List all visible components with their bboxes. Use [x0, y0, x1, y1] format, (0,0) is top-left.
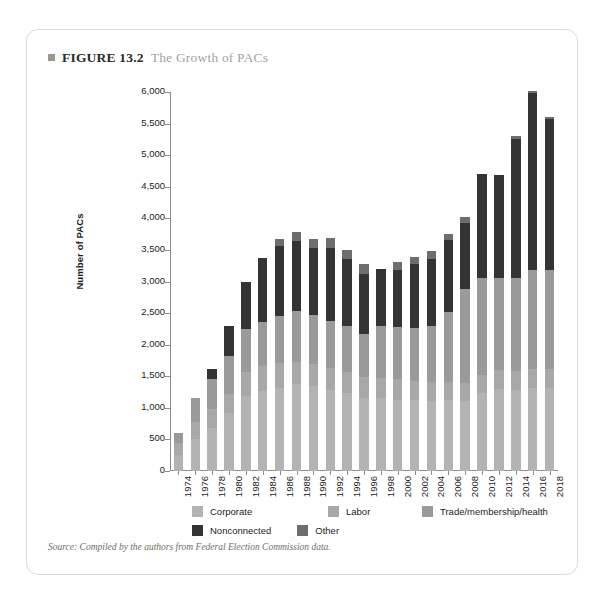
y-axis-title: Number of PACs: [74, 172, 85, 332]
bar-column[interactable]: [258, 258, 267, 471]
bar-column[interactable]: [393, 262, 402, 471]
y-tick-mark: [165, 471, 170, 472]
x-tick-mark: [178, 471, 179, 475]
x-tick-mark: [297, 471, 298, 475]
bar-segment: [393, 327, 402, 379]
bar-segment: [174, 455, 183, 471]
bar-segment: [444, 312, 453, 381]
bar-segment: [410, 400, 419, 471]
bar-column[interactable]: [326, 238, 335, 471]
legend-label: Nonconnected: [210, 525, 271, 536]
bar-segment: [309, 315, 318, 364]
bar-column[interactable]: [376, 269, 385, 471]
bar-column[interactable]: [275, 239, 284, 471]
bar-segment: [460, 289, 469, 382]
bar-column[interactable]: [410, 257, 419, 471]
bar-column[interactable]: [174, 433, 183, 471]
bar-column[interactable]: [292, 232, 301, 471]
bar-segment: [359, 264, 368, 273]
legend-item[interactable]: Corporate: [192, 506, 302, 517]
bar-segment: [494, 175, 503, 277]
bar-segment: [207, 428, 216, 471]
x-tick-mark: [313, 471, 314, 475]
bar-column[interactable]: [207, 369, 216, 471]
legend-item[interactable]: Other: [297, 525, 339, 536]
x-tick-mark: [482, 471, 483, 475]
bar-segment: [545, 119, 554, 271]
legend-swatch-icon: [192, 506, 203, 517]
x-tick-label: 2012: [503, 476, 514, 497]
bar-segment: [376, 326, 385, 378]
bar-column[interactable]: [460, 217, 469, 471]
x-tick-mark: [347, 471, 348, 475]
legend-item[interactable]: Nonconnected: [192, 525, 271, 536]
bar-column[interactable]: [427, 251, 436, 471]
bar-column[interactable]: [191, 398, 200, 471]
bar-segment: [477, 278, 486, 375]
y-tick-label: 500: [149, 432, 165, 443]
bar-segment: [444, 382, 453, 400]
x-tick-label: 2008: [469, 476, 480, 497]
y-tick-label: 2,000: [141, 338, 165, 349]
x-tick-label: 1984: [267, 476, 278, 497]
bar-segment: [241, 396, 250, 471]
bar-segment: [460, 223, 469, 289]
bar-segment: [224, 394, 233, 413]
bar-column[interactable]: [309, 239, 318, 471]
bar-column[interactable]: [342, 250, 351, 471]
bar-segment: [309, 239, 318, 248]
y-tick-label: 1,500: [141, 369, 165, 380]
y-tick-label: 4,000: [141, 211, 165, 222]
chart-area: Number of PACs 05001,0001,5002,0002,5003…: [27, 30, 579, 576]
bar-column[interactable]: [494, 175, 503, 471]
x-tick-label: 2006: [452, 476, 463, 497]
x-tick-label: 2016: [537, 476, 548, 497]
x-tick-mark: [364, 471, 365, 475]
bar-column[interactable]: [359, 264, 368, 471]
bar-column[interactable]: [528, 91, 537, 471]
chart-legend: CorporateLaborTrade/membership/healthNon…: [192, 502, 522, 540]
bar-column[interactable]: [511, 136, 520, 471]
x-tick-mark: [381, 471, 382, 475]
bar-segment: [494, 370, 503, 389]
bar-segment: [309, 386, 318, 471]
bar-segment: [376, 269, 385, 326]
bar-segment: [494, 278, 503, 370]
x-tick-label: 1992: [334, 476, 345, 497]
bar-segment: [410, 381, 419, 401]
figure-card: FIGURE 13.2 The Growth of PACs Number of…: [26, 29, 578, 575]
x-tick-mark: [212, 471, 213, 475]
bar-segment: [292, 362, 301, 385]
bar-segment: [477, 375, 486, 393]
bar-segment: [528, 369, 537, 387]
bar-segment: [191, 398, 200, 421]
legend-item[interactable]: Trade/membership/health: [422, 506, 548, 517]
bar-series-group: [170, 92, 558, 471]
x-tick-label: 1980: [233, 476, 244, 497]
bar-segment: [393, 379, 402, 399]
bar-segment: [410, 257, 419, 265]
bar-segment: [376, 398, 385, 471]
bar-column[interactable]: [444, 234, 453, 471]
x-tick-mark: [415, 471, 416, 475]
bar-column[interactable]: [477, 174, 486, 471]
bar-segment: [207, 379, 216, 409]
bar-segment: [258, 258, 267, 322]
x-tick-label: 1976: [199, 476, 210, 497]
x-tick-label: 1994: [351, 476, 362, 497]
bar-column[interactable]: [224, 326, 233, 471]
bar-segment: [427, 259, 436, 326]
bar-segment: [326, 238, 335, 248]
x-tick-mark: [550, 471, 551, 475]
bar-segment: [241, 329, 250, 373]
bar-column[interactable]: [545, 117, 554, 471]
legend-item[interactable]: Labor: [328, 506, 396, 517]
bar-segment: [410, 264, 419, 327]
source-note: Source: Compiled by the authors from Fed…: [48, 542, 331, 552]
bar-segment: [191, 439, 200, 471]
bar-segment: [342, 372, 351, 393]
bar-segment: [207, 409, 216, 428]
bar-segment: [545, 388, 554, 471]
bar-segment: [376, 378, 385, 398]
bar-column[interactable]: [241, 282, 250, 471]
